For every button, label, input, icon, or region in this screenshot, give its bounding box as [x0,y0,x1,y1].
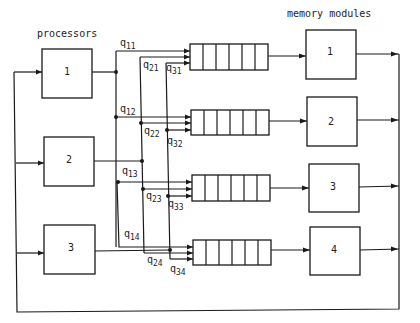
svg-text:4: 4 [331,244,337,255]
arrow-icon [302,186,309,191]
arrow-icon [185,115,191,120]
arrow-icon [186,180,192,185]
arrow-icon [185,128,191,133]
arrow-icon [187,257,193,262]
svg-text:1: 1 [327,46,333,57]
memory-module-1: 1 [306,30,356,79]
arrow-icon [300,119,307,124]
memory-module-2: 2 [307,97,357,146]
svg-text:2: 2 [66,154,72,165]
label-q34: q34 [170,263,186,277]
label-q32: q32 [167,135,183,149]
arrow-icon [36,70,42,75]
label-q13: q13 [122,165,138,179]
label-q11: q11 [120,37,136,51]
memory-to-return-links [356,52,399,252]
edge-labels: q11 q21 q31 q12 q22 q32 q13 q23 q33 q14 … [120,37,186,277]
svg-text:3: 3 [68,242,74,253]
arrow-icon [38,251,44,256]
arrow-icon [391,184,398,189]
arrow-icon [299,54,306,59]
memory-module-4: 4 [310,227,360,275]
arrow-icon [186,194,192,199]
label-q12: q12 [120,103,136,117]
label-q33: q33 [168,198,184,212]
processor-2-bus [94,57,193,253]
arrow-icon [187,245,193,250]
arrow-icon [186,187,192,192]
processor-1-bus [92,51,193,247]
processor-2: 2 [44,137,94,186]
arrow-icon [184,55,190,60]
label-q24: q24 [147,254,163,268]
label-q23: q23 [146,190,162,204]
svg-text:1: 1 [64,66,70,77]
processors-title: processors [37,28,97,39]
queue-to-memory-links [268,54,310,253]
arrow-icon [184,61,190,66]
memory-modules-title: memory modules [287,8,371,19]
label-q14: q14 [124,228,140,242]
processor-1: 1 [42,49,92,98]
arrow-icon [391,247,398,252]
label-q22: q22 [144,125,160,139]
memory-module-3: 3 [309,164,359,212]
arrow-icon [303,248,310,253]
arrow-icon [38,161,44,166]
arrow-icon [185,121,191,126]
arrow-icon [184,49,190,54]
queue-1 [190,44,268,70]
svg-text:3: 3 [330,181,336,192]
arrow-icon [187,251,193,256]
svg-text:2: 2 [328,116,334,127]
arrow-icon [391,118,398,123]
label-q31: q31 [166,62,182,76]
label-q21: q21 [143,59,159,73]
queue-4 [193,240,271,265]
arrow-icon [391,52,398,57]
processor-3: 3 [44,225,95,274]
queue-input-arrows [184,49,193,262]
queue-2 [191,110,269,135]
processor-memory-queue-diagram: processors memory modules 1 2 3 [0,0,420,323]
queue-3 [192,175,270,201]
